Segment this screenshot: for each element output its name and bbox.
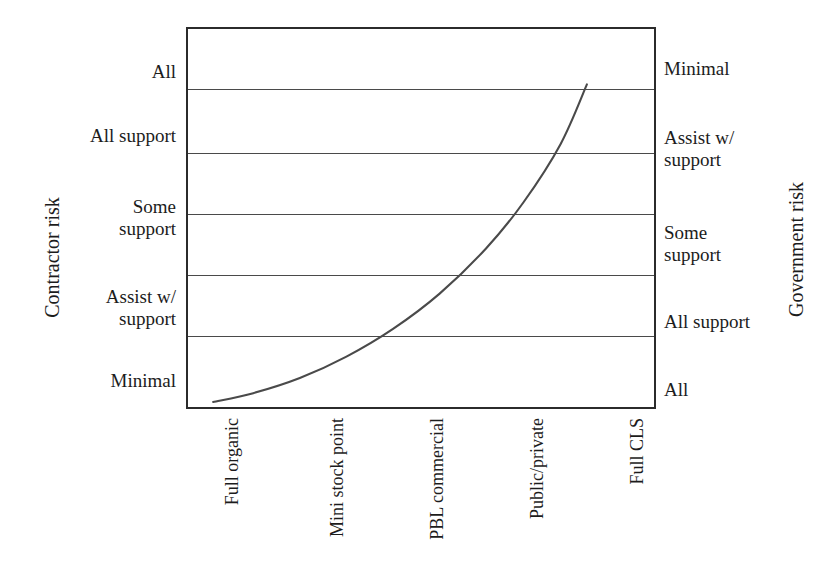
gridline-3 <box>188 214 654 215</box>
y-right-tick-assist-with-support: Assist w/ support <box>664 127 734 171</box>
risk-transfer-curve <box>213 84 587 402</box>
y-left-tick-minimal: Minimal <box>111 370 176 392</box>
y-right-tick-some-support: Some support <box>664 222 721 266</box>
left-axis-title: Contractor risk <box>41 158 64 358</box>
y-left-tick-all-support: All support <box>90 125 176 147</box>
x-tick-pbl-commercial: PBL commercial <box>427 418 447 540</box>
y-left-tick-all: All <box>152 61 176 83</box>
y-right-tick-all-support: All support <box>664 311 750 333</box>
right-axis-title: Government risk <box>785 150 808 350</box>
gridline-2 <box>188 153 654 154</box>
x-tick-full-organic: Full organic <box>222 418 242 505</box>
gridline-1 <box>188 89 654 90</box>
y-left-tick-some-support: Some support <box>119 196 176 240</box>
gridline-4 <box>188 275 654 276</box>
x-tick-full-cls: Full CLS <box>627 418 647 485</box>
risk-transfer-chart: Contractor risk Government risk Minimal … <box>0 0 835 585</box>
y-right-tick-all: All <box>664 379 688 401</box>
plot-area <box>186 27 656 409</box>
x-tick-public-private: Public/private <box>527 418 547 519</box>
x-tick-mini-stock-point: Mini stock point <box>327 418 347 537</box>
gridline-5 <box>188 336 654 337</box>
y-left-tick-assist-with-support: Assist w/ support <box>106 286 176 330</box>
risk-curve-layer <box>188 29 654 407</box>
y-right-tick-minimal: Minimal <box>664 58 729 80</box>
